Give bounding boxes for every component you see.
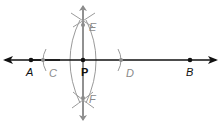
label-c: C — [49, 67, 57, 79]
point-f — [81, 96, 85, 100]
point-p — [81, 58, 86, 63]
label-f: F — [89, 93, 97, 105]
point-c — [41, 58, 45, 62]
label-b: B — [186, 66, 193, 78]
point-d — [119, 58, 123, 62]
label-a: A — [25, 66, 33, 78]
point-b — [188, 58, 193, 63]
point-e — [81, 23, 85, 27]
label-e: E — [89, 21, 97, 33]
label-d: D — [126, 67, 134, 79]
point-a — [29, 58, 34, 63]
label-p: P — [81, 66, 88, 78]
arc-left-lens — [70, 20, 80, 103]
perpendicular-construction-diagram: A C P D B E F — [0, 0, 222, 124]
